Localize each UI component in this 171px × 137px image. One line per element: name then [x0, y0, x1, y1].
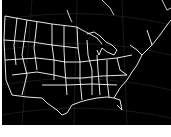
state-borders [4, 16, 171, 115]
us-map-svg [2, 0, 171, 125]
canada-islands [67, 0, 171, 22]
lat-lon-grid [2, 0, 171, 125]
us-map [2, 0, 171, 125]
